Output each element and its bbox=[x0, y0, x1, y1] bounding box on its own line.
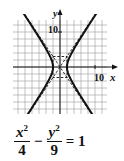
exponent: 2 bbox=[24, 123, 29, 133]
x-axis-label: x bbox=[109, 71, 116, 83]
numerator-x: x bbox=[16, 124, 24, 140]
equation: x2 4 − y2 9 = 1 bbox=[14, 124, 90, 158]
y-tick-label-10: 10 bbox=[48, 24, 58, 35]
hyperbola-graph: y 10 10 x bbox=[0, 0, 124, 120]
exponent: 2 bbox=[55, 123, 60, 133]
minus-sign: − bbox=[34, 133, 43, 150]
fraction-y-squared-over-9: y2 9 bbox=[47, 124, 62, 158]
denominator-9: 9 bbox=[50, 142, 58, 158]
y-axis-label: y bbox=[52, 8, 58, 19]
fraction-x-squared-over-4: x2 4 bbox=[14, 124, 30, 158]
denominator-4: 4 bbox=[18, 142, 26, 158]
x-tick-label-10: 10 bbox=[94, 72, 104, 83]
equals-one: = 1 bbox=[66, 133, 86, 150]
